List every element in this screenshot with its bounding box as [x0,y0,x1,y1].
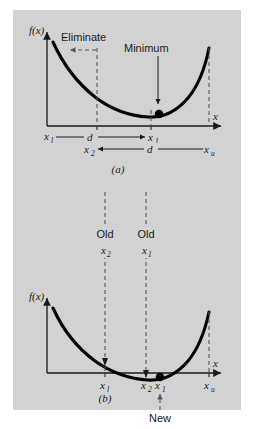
panel-a-caption: (a) [112,163,125,176]
panel-a-xl-sub: l [51,136,53,145]
panel-b-y-axis-label: f(x) [29,290,45,303]
panel-b-old-x1-word: Old [137,228,154,240]
panel-b-old-x2-base: x [100,244,106,256]
panel-a-d-lower-label: d [147,143,153,155]
panel-b-old-x2-sub: 2 [107,250,111,259]
panel-a-interval-row-2: x 2 d x u [83,143,215,158]
panel-b-curve [53,308,209,380]
panel-a-x2-label: x [83,143,89,155]
panel-a-xu-sub: u [211,149,215,158]
panel-a-y-axis-label: f(x) [29,24,45,37]
figure-root: f(x) x Eliminate Minimum x_1 --> x l [0,0,253,429]
panel-b-xu-sub: u [211,385,215,394]
panel-a-x-axis-label: x [212,110,218,122]
panel-a-minimum-point [155,110,164,119]
panel-b: f(x) x Old x 2 Old x 1 [29,192,221,424]
panel-a-xl-label: x [43,130,49,142]
panel-b-old-x2-word: Old [96,228,113,240]
panel-a-minimum-label: Minimum [124,42,169,54]
panel-a-x2-sub: 2 [91,149,95,158]
panel-b-xl-label: x [99,379,105,391]
panel-b-new-label: New [149,412,171,424]
panel-b-x1-sub: 1 [162,385,166,394]
panel-a-d-upper-label: d [87,131,93,143]
panel-a-xu-label: x [203,143,209,155]
panel-b-old-x1-sub: 1 [148,250,152,259]
panel-a-eliminate-label: Eliminate [61,31,106,43]
panel-b-old-x1-base: x [141,244,147,256]
figure-svg: f(x) x Eliminate Minimum x_1 --> x l [0,0,253,429]
panel-b-x-axis-label: x [212,357,218,369]
panel-b-caption: (b) [99,392,112,405]
panel-b-x2-label: x [140,379,146,391]
panel-a-x1-label: x [147,131,153,143]
panel-a-interval-row-1: x l d x 1 [43,130,159,146]
panel-a: f(x) x Eliminate Minimum x_1 --> x l [29,24,221,176]
panel-b-tick-labels: x l x 2 x 1 x u [99,379,215,394]
panel-b-x1-label: x [154,379,160,391]
panel-b-xu-label: x [203,379,209,391]
panel-b-x2-sub: 2 [148,385,152,394]
